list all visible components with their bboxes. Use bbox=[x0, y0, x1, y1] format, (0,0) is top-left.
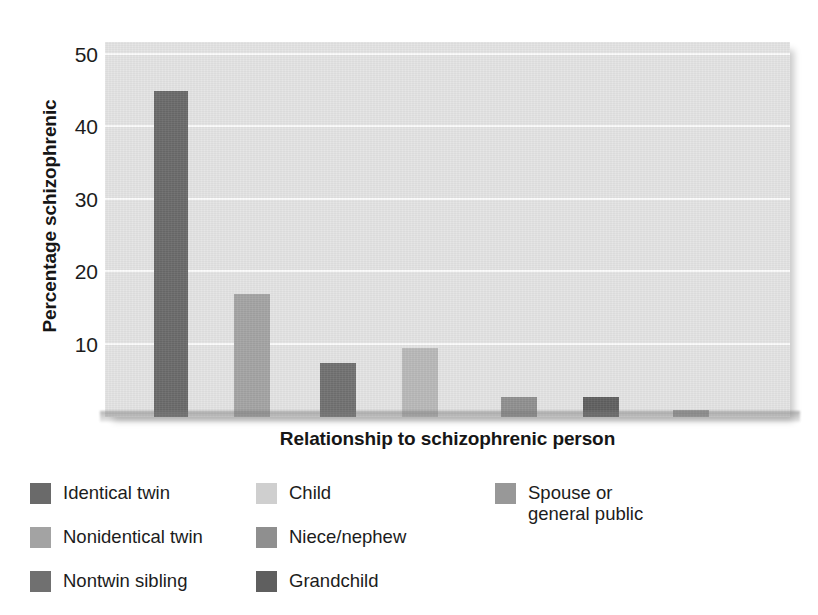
legend-item: Nonidentical twin bbox=[30, 526, 260, 570]
legend-label: Nonidentical twin bbox=[63, 526, 203, 547]
legend-swatch-icon bbox=[30, 527, 51, 548]
legend-item: Child bbox=[256, 482, 486, 526]
legend-column-1: Identical twinNonidentical twinNontwin s… bbox=[30, 482, 260, 614]
legend-label: Spouse or general public bbox=[528, 482, 643, 524]
gridline-50 bbox=[105, 53, 790, 55]
legend-swatch-icon bbox=[256, 483, 277, 504]
gridline-30 bbox=[105, 198, 790, 200]
legend-swatch-icon bbox=[30, 571, 51, 592]
legend-swatch-icon bbox=[256, 571, 277, 592]
legend-item: Grandchild bbox=[256, 570, 486, 614]
legend-label: Identical twin bbox=[63, 482, 170, 503]
legend-item: Spouse or general public bbox=[495, 482, 775, 526]
legend-label: Nontwin sibling bbox=[63, 570, 187, 591]
legend-column-3: Spouse or general public bbox=[495, 482, 775, 526]
legend-column-2: ChildNiece/nephewGrandchild bbox=[256, 482, 486, 614]
legend-label: Niece/nephew bbox=[289, 526, 406, 547]
gridline-40 bbox=[105, 125, 790, 127]
plot-area bbox=[105, 42, 790, 417]
legend-item: Identical twin bbox=[30, 482, 260, 526]
bar-child bbox=[402, 348, 438, 417]
legend-swatch-icon bbox=[30, 483, 51, 504]
bar-nonidentical-twin bbox=[234, 294, 270, 417]
y-tick-label-20: 20 bbox=[52, 261, 98, 282]
y-tick-label-10: 10 bbox=[52, 334, 98, 355]
legend-item: Niece/nephew bbox=[256, 526, 486, 570]
y-tick-label-30: 30 bbox=[52, 189, 98, 210]
legend-label: Grandchild bbox=[289, 570, 378, 591]
x-axis-title: Relationship to schizophrenic person bbox=[105, 428, 790, 450]
gridline-10 bbox=[105, 343, 790, 345]
y-tick-label-50: 50 bbox=[52, 44, 98, 65]
legend-swatch-icon bbox=[495, 483, 516, 504]
gridline-20 bbox=[105, 270, 790, 272]
legend-swatch-icon bbox=[256, 527, 277, 548]
bar-chart-figure: Percentage schizophrenic 1020304050 Rela… bbox=[0, 0, 818, 615]
legend-item: Nontwin sibling bbox=[30, 570, 260, 614]
axis-baseline bbox=[100, 411, 800, 422]
y-tick-label-40: 40 bbox=[52, 116, 98, 137]
bar-identical-twin bbox=[154, 91, 188, 417]
chart-legend: Identical twinNonidentical twinNontwin s… bbox=[30, 482, 790, 602]
legend-label: Child bbox=[289, 482, 331, 503]
bar-nontwin-sibling bbox=[320, 363, 356, 417]
